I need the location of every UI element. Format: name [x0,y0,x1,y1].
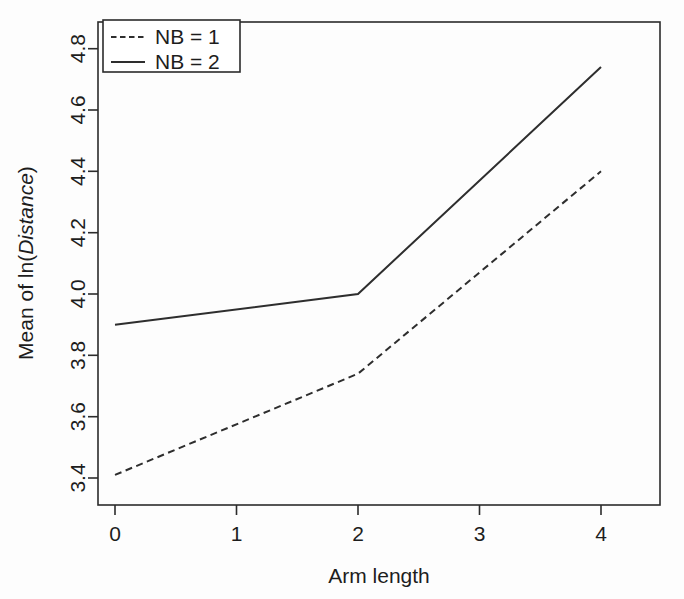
x-axis-title: Arm length [328,564,430,587]
x-axis-ticks [115,505,601,515]
y-tick-label: 3.4 [66,463,89,493]
y-tick-label: 4.4 [66,156,89,186]
x-axis-tick-labels: 0 1 2 3 4 [109,522,607,545]
chart-figure: 3.4 3.6 3.8 4.0 4.2 4.4 4.6 4.8 0 1 2 3 … [0,0,684,599]
y-tick-label: 4.8 [66,34,89,63]
legend-label-nb-1: NB = 1 [155,25,220,48]
series-line-nb-1 [115,171,601,475]
y-tick-label: 4.6 [66,95,89,124]
x-tick-label: 3 [474,522,486,545]
y-tick-label: 3.6 [66,402,89,431]
y-tick-label: 4.2 [66,218,89,247]
y-tick-label: 4.0 [66,279,89,308]
y-axis-ticks [88,49,98,478]
y-tick-label: 3.8 [66,341,89,370]
legend-label-nb-2: NB = 2 [155,50,220,73]
x-tick-label: 4 [595,522,607,545]
series-line-nb-2 [115,67,601,325]
line-chart-plot: 3.4 3.6 3.8 4.0 4.2 4.4 4.6 4.8 0 1 2 3 … [0,0,684,599]
x-tick-label: 0 [109,522,121,545]
plot-frame [98,22,660,505]
x-tick-label: 2 [352,522,364,545]
y-axis-tick-labels: 3.4 3.6 3.8 4.0 4.2 4.4 4.6 4.8 [66,34,89,493]
y-axis-title-prefix: Mean of ln( [14,255,37,360]
y-axis-title-italic: Distance [14,173,37,255]
chart-legend: NB = 1 NB = 2 [103,20,240,73]
x-tick-label: 1 [231,522,243,545]
y-axis-title: Mean of ln(Distance) [14,166,37,360]
y-axis-title-suffix: ) [14,166,37,173]
